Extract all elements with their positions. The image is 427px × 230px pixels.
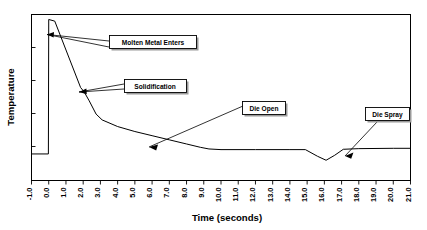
x-axis-tick-label: 7.0 [162, 188, 171, 198]
x-axis-tick-label: 2.0 [76, 188, 85, 198]
plot-frame [32, 15, 411, 181]
x-axis-tick-label: 20.0 [386, 188, 395, 202]
x-axis-tick-label: 11.0 [231, 188, 240, 202]
annotation-solidification: Solidification [79, 80, 189, 95]
x-axis-tick-label: -1.0 [25, 188, 34, 201]
arrowhead-icon [345, 153, 353, 159]
annotation-die-open: Die Open [149, 102, 288, 151]
y-axis-title: Temperature [5, 68, 16, 125]
arrowhead-icon [79, 88, 87, 94]
x-axis-title: Time (seconds) [192, 212, 262, 223]
x-axis-tick-label: 1.0 [59, 188, 68, 198]
x-axis-tick-label: 13.0 [266, 188, 275, 202]
annotation-label: Die Spray [372, 111, 403, 119]
x-axis-tick-label: 5.0 [128, 188, 137, 198]
x-axis-tick-label: 16.0 [317, 188, 326, 202]
x-axis-ticks [32, 181, 411, 185]
x-axis-tick-label: 6.0 [145, 188, 154, 198]
x-axis-tick-label: 12.0 [248, 187, 257, 201]
temperature-curve [32, 19, 411, 160]
x-axis-tick-label: 18.0 [352, 188, 361, 202]
x-axis-tick-label: 4.0 [111, 188, 120, 198]
chart-canvas: -1.00.01.02.03.04.05.06.07.08.09.010.011… [0, 0, 427, 230]
x-axis-tick-label: 9.0 [197, 188, 206, 198]
annotation-die-spray: Die Spray [345, 108, 412, 159]
x-axis-tick-label: 0.0 [42, 188, 51, 198]
annotation-molten-metal-enters: Molten Metal Enters [47, 32, 199, 51]
x-axis-tick-label: 10.0 [214, 188, 223, 202]
annotation-label: Die Open [250, 105, 279, 113]
y-axis-ticks [32, 48, 36, 147]
x-axis-tick-label: 21.0 [404, 188, 413, 202]
x-axis-tick-label: 17.0 [335, 188, 344, 202]
annotation-label: Molten Metal Enters [122, 39, 185, 46]
thermal-cycle-chart-figure: -1.00.01.02.03.04.05.06.07.08.09.010.011… [0, 0, 427, 230]
x-axis-tick-label: 3.0 [93, 188, 102, 198]
annotation-label: Solidification [134, 83, 175, 90]
x-axis-tick-label: 15.0 [300, 188, 309, 202]
x-axis-tick-label: 14.0 [283, 188, 292, 202]
x-axis-tick-label: 8.0 [180, 188, 189, 198]
x-axis-tick-labels: -1.00.01.02.03.04.05.06.07.08.09.010.011… [25, 187, 413, 201]
x-axis-tick-label: 19.0 [369, 188, 378, 202]
arrowhead-icon [47, 32, 54, 37]
